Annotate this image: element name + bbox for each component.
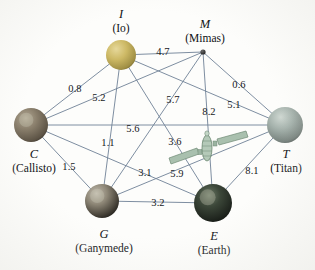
- edge-weight-i-t: 5.1: [227, 99, 240, 110]
- edge-weight-c-g: 1.5: [62, 161, 75, 172]
- node-name-c: (Callisto): [12, 162, 55, 174]
- edge-weight-e-c: 5.9: [170, 168, 183, 179]
- edge-weight-i-m: 4.7: [156, 46, 169, 57]
- node-symbol-t: T: [270, 148, 302, 162]
- node-symbol-g: G: [75, 228, 132, 242]
- edge-weight-c-t: 5.6: [126, 123, 139, 134]
- node-highlight: [19, 113, 33, 127]
- edge-weight-g-t: 3.1: [138, 167, 151, 178]
- graph-node-moon-mimas[interactable]: [200, 49, 205, 54]
- graph-edge-m-e: [203, 54, 212, 184]
- edge-weight-m-e: 8.2: [202, 106, 215, 117]
- edge-weight-e-t: 8.1: [245, 165, 258, 176]
- edge-weight-m-g: 3.6: [168, 136, 181, 147]
- edge-weight-c-i: 0.8: [68, 83, 81, 94]
- node-caption-moon-callisto: C(Callisto): [12, 148, 55, 174]
- node-caption-moon-ganymede: G(Ganymede): [75, 228, 132, 254]
- node-name-i: (Io): [112, 22, 129, 34]
- node-highlight: [200, 189, 216, 205]
- edge-weight-c-m: 5.7: [166, 94, 179, 105]
- node-caption-moon-io: I(Io): [112, 8, 129, 34]
- edge-weight-i-e: 1.1: [101, 137, 114, 148]
- node-name-e: (Earth): [198, 244, 231, 256]
- edge-weight-g-e: 3.2: [151, 197, 164, 208]
- node-name-m: (Mimas): [185, 32, 225, 44]
- node-symbol-c: C: [12, 148, 55, 162]
- graph-edge-m-g: [111, 54, 202, 188]
- graph-canvas: [0, 0, 315, 270]
- node-highlight: [90, 189, 104, 203]
- node-name-g: (Ganymede): [75, 242, 132, 254]
- graph-edges: [42, 52, 273, 203]
- graph-edge-g-t: [117, 132, 269, 195]
- edge-weight-i-g: 5.2: [92, 92, 105, 103]
- node-name-t: (Titan): [270, 162, 302, 174]
- graph-nodes: [14, 40, 303, 222]
- edge-weight-m-t: 0.6: [232, 79, 245, 90]
- weighted-graph-figure: 4.70.85.20.65.78.25.15.61.13.61.53.15.98…: [0, 0, 315, 270]
- node-caption-planet-earth: E(Earth): [198, 230, 231, 256]
- node-symbol-i: I: [112, 8, 129, 22]
- node-caption-moon-titan: T(Titan): [270, 148, 302, 174]
- node-symbol-m: M: [185, 18, 225, 32]
- graph-node-moon-io[interactable]: [106, 40, 136, 70]
- graph-node-moon-titan[interactable]: [267, 107, 303, 143]
- node-symbol-e: E: [198, 230, 231, 244]
- graph-edge-i-g: [104, 69, 119, 184]
- node-caption-moon-mimas: M(Mimas): [185, 18, 225, 44]
